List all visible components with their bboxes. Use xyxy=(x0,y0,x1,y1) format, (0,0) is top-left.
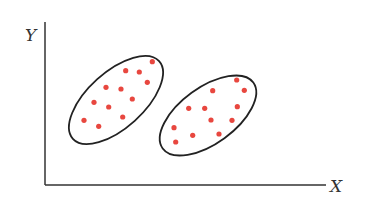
data-point xyxy=(216,131,221,136)
data-point xyxy=(81,118,86,123)
data-point xyxy=(229,118,234,123)
data-point xyxy=(103,85,108,90)
data-point xyxy=(171,125,176,130)
data-point xyxy=(208,117,213,122)
data-point xyxy=(96,124,101,129)
cluster-diagram: Y X xyxy=(0,0,366,204)
data-point xyxy=(242,88,247,93)
data-point xyxy=(210,88,215,93)
data-point xyxy=(137,69,142,74)
clusters xyxy=(54,40,270,171)
data-point xyxy=(91,100,96,105)
data-point xyxy=(235,104,240,109)
data-point xyxy=(150,59,155,64)
data-point xyxy=(234,77,239,82)
data-point xyxy=(120,114,125,119)
data-point xyxy=(186,106,191,111)
cluster-right xyxy=(146,60,270,171)
data-point xyxy=(202,106,207,111)
axes: Y X xyxy=(25,22,343,196)
data-point xyxy=(106,104,111,109)
data-point xyxy=(190,133,195,138)
cluster-ellipse xyxy=(146,60,270,171)
data-point xyxy=(173,139,178,144)
x-axis-label: X xyxy=(328,176,343,196)
data-point xyxy=(130,96,135,101)
data-point xyxy=(123,68,128,73)
data-point xyxy=(145,80,150,85)
y-axis-label: Y xyxy=(25,25,38,45)
data-point xyxy=(118,86,123,91)
